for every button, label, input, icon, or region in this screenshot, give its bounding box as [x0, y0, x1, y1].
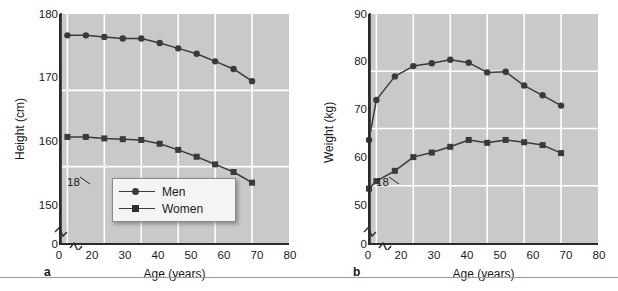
legend-row-men: Men — [119, 183, 227, 200]
x-tick-b-40: 40 — [454, 250, 480, 262]
y-tick-b-70: 70 — [317, 104, 367, 116]
y-axis-title-a: Height (cm) — [14, 98, 26, 160]
x-tick-a-50: 50 — [178, 250, 204, 262]
y-tick-b-90: 90 — [317, 9, 367, 21]
legend-marker-square-icon — [119, 202, 155, 216]
x-tick-a-70: 70 — [244, 250, 270, 262]
x-axis-title-b: Age (years) — [369, 268, 598, 280]
reference-leader-b — [389, 176, 403, 188]
x-tick-b-0: 0 — [355, 250, 381, 262]
x-tick-a-20: 20 — [79, 250, 105, 262]
legend-marker-circle-icon — [119, 185, 155, 199]
x-tick-a-40: 40 — [145, 250, 171, 262]
y-axis-line-a — [59, 14, 61, 243]
x-tick-b-70: 70 — [553, 250, 579, 262]
x-tick-a-60: 60 — [211, 250, 237, 262]
panel-b: Weight (kg) Age (years) 90 80 70 60 50 0… — [309, 0, 618, 291]
y-axis-line-b — [368, 14, 370, 243]
footer-divider — [0, 277, 618, 278]
x-axis-title-a: Age (years) — [60, 268, 289, 280]
panel-a: Height (cm) Age (years) 180 170 160 150 … — [0, 0, 309, 291]
legend-label-women: Women — [162, 203, 203, 215]
x-tick-a-80: 80 — [277, 250, 303, 262]
plot-svg-b — [369, 14, 598, 243]
x-tick-b-20: 20 — [388, 250, 414, 262]
y-tick-b-60: 60 — [317, 152, 367, 164]
y-tick-b-0: 0 — [317, 239, 367, 251]
reference-annotation-a: 18 — [67, 177, 80, 189]
y-tick-a-0: 0 — [8, 239, 58, 251]
x-tick-b-80: 80 — [586, 250, 612, 262]
legend-label-men: Men — [162, 186, 185, 198]
x-tick-a-0: 0 — [46, 250, 72, 262]
y-tick-a-150: 150 — [8, 200, 58, 212]
plot-area-b — [369, 14, 598, 243]
reference-leader-a — [80, 176, 94, 188]
legend-row-women: Women — [119, 200, 227, 217]
x-tick-a-30: 30 — [112, 250, 138, 262]
y-tick-b-50: 50 — [317, 200, 367, 212]
y-tick-b-80: 80 — [317, 56, 367, 68]
y-tick-a-180: 180 — [8, 9, 58, 21]
x-tick-b-30: 30 — [421, 250, 447, 262]
x-tick-b-60: 60 — [520, 250, 546, 262]
y-tick-a-170: 170 — [8, 72, 58, 84]
y-tick-a-160: 160 — [8, 136, 58, 148]
figure-root: Height (cm) Age (years) 180 170 160 150 … — [0, 0, 618, 291]
reference-annotation-b: 18 — [376, 177, 389, 189]
legend-a: Men Women — [112, 178, 236, 222]
x-tick-b-50: 50 — [487, 250, 513, 262]
